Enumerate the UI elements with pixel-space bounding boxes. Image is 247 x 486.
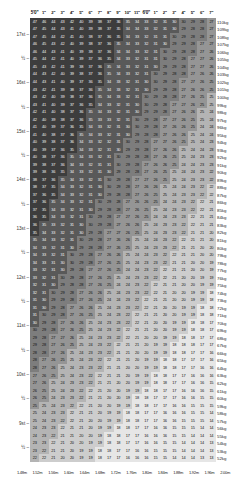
bmi-cell: 29	[188, 18, 197, 26]
bmi-cell: 22	[49, 439, 58, 447]
bmi-cell: 26	[188, 93, 197, 101]
height-imperial-tick: 7"	[95, 10, 104, 16]
bmi-cell: 32	[86, 161, 95, 169]
bmi-cell: 25	[30, 409, 39, 417]
bmi-cell: 37	[77, 78, 86, 86]
bmi-cell: 38	[39, 153, 48, 161]
bmi-cell: 25	[77, 342, 86, 350]
bmi-cell: 37	[67, 108, 76, 116]
bmi-cell: 26	[160, 161, 169, 169]
bmi-cell: 43	[30, 101, 39, 109]
bmi-cell: 27	[86, 281, 95, 289]
bmi-cell: 33	[132, 48, 141, 56]
bmi-cell: 15	[151, 447, 160, 455]
bmi-cell: 34	[104, 93, 113, 101]
bmi-cell: 18	[151, 387, 160, 395]
bmi-cell: 13	[197, 454, 206, 462]
bmi-cell: 15	[207, 402, 216, 410]
bmi-cell: 19	[179, 304, 188, 312]
bmi-cell: 22	[104, 342, 113, 350]
bmi-cell: 41	[49, 78, 58, 86]
bmi-cell: 25	[49, 379, 58, 387]
bmi-cell: 20	[179, 281, 188, 289]
weight-kilograms-tick: 88kg	[217, 185, 226, 190]
bmi-cell: 20	[114, 387, 123, 395]
bmi-cell: 27	[30, 372, 39, 380]
bmi-cell: 32	[142, 41, 151, 49]
bmi-cell: 34	[123, 33, 132, 41]
bmi-cell: 37	[77, 86, 86, 94]
bmi-cell: 25	[179, 146, 188, 154]
bmi-cell: 16	[197, 364, 206, 372]
bmi-cell: 29	[30, 342, 39, 350]
bmi-cell: 27	[170, 116, 179, 124]
bmi-cell: 36	[95, 56, 104, 64]
bmi-cell: 24	[30, 432, 39, 440]
bmi-cell: 30	[77, 236, 86, 244]
bmi-cell: 34	[30, 251, 39, 259]
bmi-cell: 22	[30, 454, 39, 462]
weight-kilograms-tick: 52kg	[217, 456, 226, 461]
bmi-cell: 18	[132, 409, 141, 417]
bmi-cell: 23	[39, 424, 48, 432]
bmi-cell: 19	[95, 439, 104, 447]
bmi-cell: 38	[30, 184, 39, 192]
bmi-cell: 28	[142, 138, 151, 146]
bmi-cell: 32	[86, 169, 95, 177]
bmi-cell: 29	[77, 251, 86, 259]
bmi-cell: 25	[104, 274, 113, 282]
bmi-cell: 27	[207, 18, 216, 26]
bmi-cell: 29	[67, 274, 76, 282]
bmi-cell: 20	[170, 296, 179, 304]
bmi-cell: 28	[188, 33, 197, 41]
bmi-cell: 22	[39, 447, 48, 455]
height-metric-tick: 1.48m	[14, 469, 30, 476]
bmi-cell: 20	[86, 417, 95, 425]
bmi-cell: 33	[95, 116, 104, 124]
bmi-cell: 24	[188, 161, 197, 169]
bmi-cell: 19	[77, 447, 86, 455]
bmi-cell: 25	[132, 229, 141, 237]
bmi-cell: 19	[160, 349, 169, 357]
bmi-cell: 19	[142, 379, 151, 387]
bmi-cell: 30	[160, 41, 169, 49]
bmi-cell: 21	[132, 334, 141, 342]
bmi-cell: 18	[132, 394, 141, 402]
bmi-cell: 27	[151, 153, 160, 161]
bmi-cell: 26	[188, 108, 197, 116]
bmi-cell: 25	[151, 199, 160, 207]
bmi-cell: 24	[49, 394, 58, 402]
bmi-cell: 19	[104, 417, 113, 425]
bmi-cell: 26	[86, 304, 95, 312]
bmi-cell: 32	[39, 266, 48, 274]
bmi-cell: 25	[95, 311, 104, 319]
bmi-cell: 31	[67, 229, 76, 237]
bmi-cell: 30	[132, 116, 141, 124]
bmi-cell: 30	[142, 101, 151, 109]
bmi-cell: 25	[77, 334, 86, 342]
bmi-cell: 23	[170, 206, 179, 214]
bmi-cell: 28	[179, 63, 188, 71]
bmi-cell: 26	[132, 199, 141, 207]
bmi-cell: 27	[95, 251, 104, 259]
bmi-cell: 17	[207, 334, 216, 342]
bmi-cell: 28	[132, 169, 141, 177]
weight-stones-tick: ½ –	[21, 201, 29, 206]
bmi-cell: 26	[170, 131, 179, 139]
bmi-cell: 19	[179, 319, 188, 327]
bmi-cell: 27	[132, 184, 141, 192]
bmi-cell: 14	[197, 439, 206, 447]
bmi-cell: 34	[77, 153, 86, 161]
bmi-cell: 31	[160, 18, 169, 26]
bmi-cell: 21	[188, 251, 197, 259]
bmi-cell: 30	[58, 259, 67, 267]
bmi-cell: 41	[67, 26, 76, 34]
bmi-cell: 40	[77, 26, 86, 34]
bmi-cell: 32	[58, 221, 67, 229]
bmi-cell: 21	[151, 304, 160, 312]
bmi-cell: 35	[95, 78, 104, 86]
bmi-cell: 25	[67, 342, 76, 350]
bmi-cell: 19	[114, 409, 123, 417]
bmi-cell: 21	[179, 251, 188, 259]
bmi-cell: 27	[95, 259, 104, 267]
